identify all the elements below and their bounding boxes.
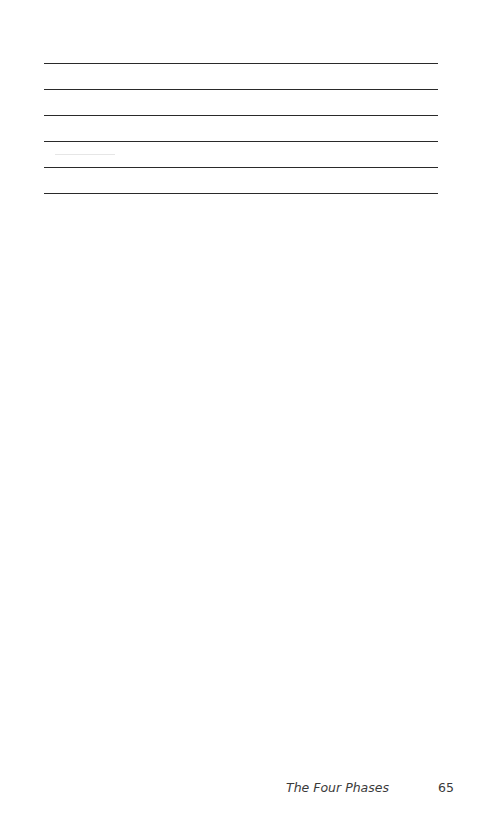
page-number: 65 <box>438 780 454 795</box>
page-footer: The Four Phases 65 <box>0 780 490 800</box>
ruled-line <box>44 193 438 194</box>
running-head: The Four Phases <box>286 780 389 795</box>
ruled-line <box>44 167 438 168</box>
ruled-line <box>44 89 438 90</box>
ruled-line <box>44 141 438 142</box>
faint-mark <box>55 154 115 155</box>
ruled-line <box>44 115 438 116</box>
ruled-line <box>44 63 438 64</box>
